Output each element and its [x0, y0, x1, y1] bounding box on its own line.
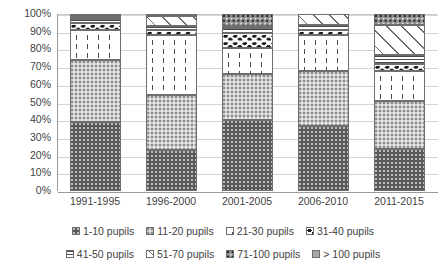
bar-stack: [374, 14, 425, 191]
legend-swatch: [226, 227, 234, 235]
legend-label: 51-70 pupils: [157, 248, 214, 260]
y-axis-tick-label: 50%: [1, 97, 51, 108]
bar-segment[interactable]: [374, 25, 425, 55]
legend-item[interactable]: > 100 pupils: [312, 248, 380, 260]
bar-segment[interactable]: [374, 64, 425, 71]
bar-segment[interactable]: [146, 95, 197, 150]
legend-item[interactable]: 71-100 pupils: [226, 248, 300, 260]
y-axis-tick-label: 0%: [1, 185, 51, 196]
legend-item[interactable]: 51-70 pupils: [146, 248, 214, 260]
x-axis-tick-label: 2001-2005: [209, 194, 285, 208]
bar-segment[interactable]: [222, 28, 273, 33]
bar-segment[interactable]: [374, 14, 425, 25]
y-axis-tick-label: 20%: [1, 150, 51, 161]
legend-swatch: [146, 227, 154, 235]
legend-label: 41-50 pupils: [77, 248, 134, 260]
y-axis-tick-label: 100%: [1, 8, 51, 19]
bar-segment[interactable]: [298, 25, 349, 30]
bar-stack: [146, 14, 197, 191]
legend-item[interactable]: 31-40 pupils: [306, 225, 374, 237]
y-axis: 0%10%20%30%40%50%60%70%80%90%100%: [0, 0, 54, 200]
legend-label: 1-10 pupils: [83, 225, 134, 237]
y-axis-tick-label: 60%: [1, 79, 51, 90]
y-axis-tick-label: 90%: [1, 26, 51, 37]
legend-item[interactable]: 21-30 pupils: [226, 225, 294, 237]
stacked-bar-chart: 0%10%20%30%40%50%60%70%80%90%100% 1991-1…: [0, 0, 446, 277]
bar-segment[interactable]: [146, 30, 197, 35]
bar-segment[interactable]: [70, 14, 121, 16]
bar-segment[interactable]: [146, 14, 197, 16]
y-axis-tick-label: 10%: [1, 167, 51, 178]
bar-segment[interactable]: [222, 33, 273, 47]
bar-segment[interactable]: [70, 60, 121, 122]
bar-segment[interactable]: [70, 16, 121, 18]
bar-segment[interactable]: [298, 126, 349, 191]
bar-segment[interactable]: [146, 150, 197, 191]
y-axis-tick-label: 40%: [1, 114, 51, 125]
bar-stack: [298, 14, 349, 191]
bar-segment[interactable]: [70, 23, 121, 30]
legend-swatch: [146, 250, 154, 258]
legend-label: 31-40 pupils: [317, 225, 374, 237]
legend-swatch: [306, 227, 314, 235]
bar-segment[interactable]: [70, 30, 121, 60]
bar-segment[interactable]: [146, 16, 197, 27]
bar-segment[interactable]: [298, 14, 349, 25]
bar-stack: [222, 14, 273, 191]
bar-segment[interactable]: [374, 55, 425, 64]
x-axis-tick-label: 2006-2010: [285, 194, 361, 208]
bar-segment[interactable]: [222, 74, 273, 120]
bar-segment[interactable]: [298, 35, 349, 70]
legend-swatch: [226, 250, 234, 258]
legend-label: 21-30 pupils: [237, 225, 294, 237]
legend-label: > 100 pupils: [323, 248, 380, 260]
bar-segment[interactable]: [146, 26, 197, 30]
bar-group[interactable]: [374, 14, 425, 191]
bars-layer: [57, 14, 437, 191]
bar-segment[interactable]: [222, 120, 273, 191]
legend-swatch: [312, 250, 320, 258]
bar-segment[interactable]: [222, 26, 273, 28]
chart-legend: 1-10 pupils11-20 pupils21-30 pupils31-40…: [0, 219, 446, 271]
bar-segment[interactable]: [70, 19, 121, 23]
legend-item[interactable]: 11-20 pupils: [146, 225, 213, 237]
x-axis-tick-label: 1996-2000: [133, 194, 209, 208]
x-axis-baseline: [58, 192, 438, 193]
bar-segment[interactable]: [298, 30, 349, 35]
y-axis-tick-label: 30%: [1, 132, 51, 143]
legend-label: 71-100 pupils: [237, 248, 300, 260]
legend-item[interactable]: 41-50 pupils: [66, 248, 134, 260]
y-axis-tick-label: 70%: [1, 61, 51, 72]
bar-group[interactable]: [298, 14, 349, 191]
bar-group[interactable]: [70, 14, 121, 191]
bar-segment[interactable]: [374, 149, 425, 191]
bar-group[interactable]: [222, 14, 273, 191]
bar-segment[interactable]: [374, 71, 425, 101]
bar-segment[interactable]: [146, 35, 197, 95]
legend-swatch: [66, 250, 74, 258]
bar-segment[interactable]: [222, 48, 273, 75]
legend-row: 41-50 pupils51-70 pupils71-100 pupils> 1…: [0, 242, 446, 265]
legend-item[interactable]: 1-10 pupils: [72, 225, 134, 237]
bar-segment[interactable]: [298, 71, 349, 126]
bar-segment[interactable]: [222, 14, 273, 26]
legend-row: 1-10 pupils11-20 pupils21-30 pupils31-40…: [0, 219, 446, 242]
y-axis-tick-label: 80%: [1, 43, 51, 54]
x-axis-tick-label: 1991-1995: [57, 194, 133, 208]
x-axis-tick-label: 2011-2015: [361, 194, 437, 208]
bar-segment[interactable]: [70, 17, 121, 19]
bar-stack: [70, 14, 121, 191]
legend-swatch: [72, 227, 80, 235]
bar-segment[interactable]: [70, 122, 121, 191]
bar-group[interactable]: [146, 14, 197, 191]
legend-label: 11-20 pupils: [157, 225, 213, 237]
x-axis: 1991-19951996-20002001-20052006-20102011…: [57, 194, 437, 212]
bar-segment[interactable]: [374, 101, 425, 149]
